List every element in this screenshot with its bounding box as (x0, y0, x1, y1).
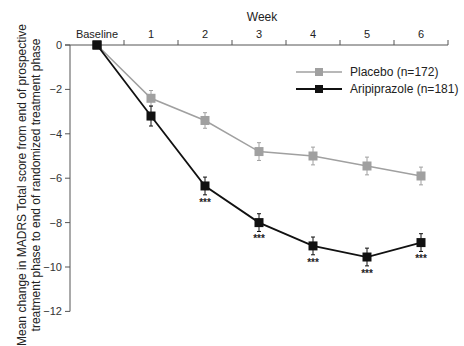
series-placebo (93, 41, 426, 185)
significance-label: *** (253, 233, 265, 244)
data-point (417, 238, 426, 247)
legend: Placebo (n=172)Aripiprazole (n=181) (296, 65, 458, 96)
x-tick-label: 1 (148, 28, 154, 40)
legend-label: Aripiprazole (n=181) (350, 82, 458, 96)
y-axis-label-line-1: Mean change in MADRS Total score from en… (15, 24, 29, 346)
data-point (147, 94, 156, 103)
significance-label: *** (199, 197, 211, 208)
significance-label: *** (361, 268, 373, 279)
data-point (363, 253, 372, 262)
data-point (201, 116, 210, 125)
x-tick-label: 5 (364, 28, 370, 40)
y-tick-label: −2 (49, 83, 62, 95)
legend-label: Placebo (n=172) (350, 65, 438, 79)
y-tick-label: −8 (49, 217, 62, 229)
y-tick-label: −10 (43, 261, 62, 273)
significance-label: *** (415, 253, 427, 264)
x-tick-label: 2 (202, 28, 208, 40)
data-point (147, 112, 156, 121)
data-point (309, 241, 318, 250)
significance-label: *** (307, 257, 319, 268)
legend-marker (315, 68, 323, 76)
y-tick-label: 0 (56, 39, 62, 51)
data-point (309, 152, 318, 161)
data-point (363, 161, 372, 170)
data-point (93, 41, 102, 50)
data-point (255, 218, 264, 227)
legend-marker (315, 85, 323, 93)
x-tick-label: 3 (256, 28, 262, 40)
data-point (417, 171, 426, 180)
x-tick-label: Baseline (76, 28, 118, 40)
legend-item: Aripiprazole (n=181) (296, 82, 458, 96)
y-tick-label: −4 (49, 128, 62, 140)
chart: 0−2−4−6−8−10−12Baseline123456 **********… (0, 0, 464, 346)
y-axis-label: Mean change in MADRS Total score from en… (15, 24, 43, 346)
data-point (255, 147, 264, 156)
data-point (201, 181, 210, 190)
x-tick-label: 4 (310, 28, 316, 40)
y-axis-label-line-2: treatment phase to end of randomized tre… (29, 38, 43, 331)
legend-item: Placebo (n=172) (296, 65, 438, 79)
x-axis-label: Week (247, 10, 278, 24)
y-tick-label: −6 (49, 172, 62, 184)
x-tick-label: 6 (418, 28, 424, 40)
y-tick-label: −12 (43, 305, 62, 317)
